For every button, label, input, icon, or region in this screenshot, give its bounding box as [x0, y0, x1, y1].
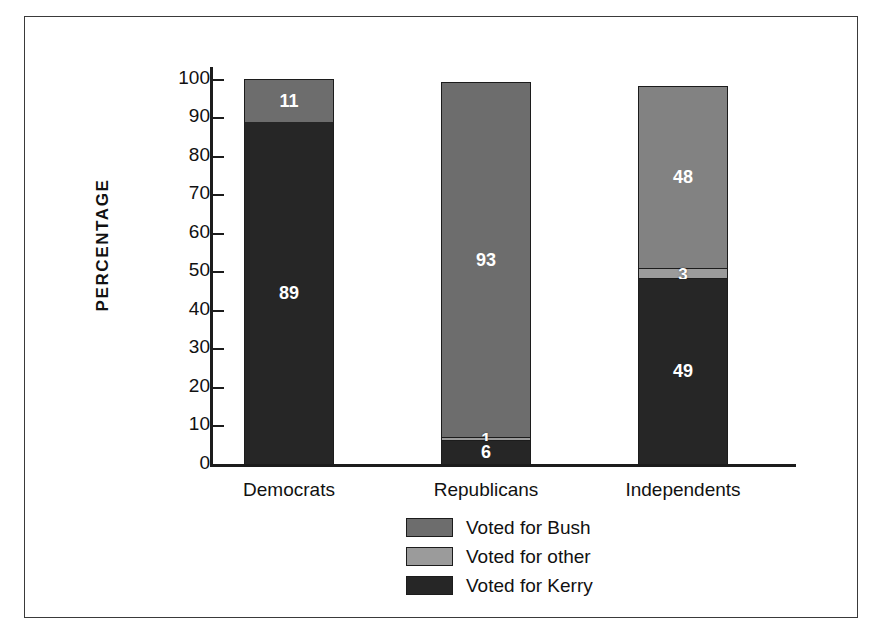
legend-label-other: Voted for other [466, 546, 591, 568]
legend-item-bush[interactable]: Voted for Bush [406, 514, 593, 541]
y-axis-title: PERCENTAGE [93, 135, 113, 355]
bar-segment-independents-kerry[interactable]: 49 [639, 279, 727, 464]
bar-value-independents-bush: 48 [673, 167, 693, 188]
bar-segment-democrats-kerry[interactable]: 89 [245, 122, 333, 464]
y-tick-label-100: 100 [166, 68, 210, 87]
legend-swatch-kerry [406, 576, 453, 595]
legend-label-kerry: Voted for Kerry [466, 575, 593, 597]
bar-segment-republicans-kerry[interactable]: 6 [442, 441, 530, 464]
bar-stack-democrats[interactable]: 11 89 [244, 79, 334, 465]
x-tick-label-democrats: Democrats [189, 479, 389, 501]
y-tick-label-20: 20 [166, 376, 210, 395]
y-tick-label-50: 50 [166, 260, 210, 279]
legend-item-kerry[interactable]: Voted for Kerry [406, 572, 593, 599]
bar-segment-independents-other[interactable]: 3 [639, 268, 727, 279]
y-tick-label-30: 30 [166, 337, 210, 356]
y-tick-label-80: 80 [166, 145, 210, 164]
bar-value-democrats-kerry: 89 [279, 283, 299, 304]
y-tick-label-60: 60 [166, 222, 210, 241]
y-tick-label-70: 70 [166, 183, 210, 202]
y-tick-label-0: 0 [166, 453, 210, 472]
legend-swatch-other [406, 547, 453, 566]
y-tick-label-40: 40 [166, 299, 210, 318]
legend-swatch-bush [406, 518, 453, 537]
bar-value-republicans-bush: 93 [476, 250, 496, 271]
chart-legend: Voted for Bush Voted for other Voted for… [406, 514, 593, 601]
figure-frame: PERCENTAGE 100 90 80 70 60 50 40 30 20 1… [24, 16, 858, 618]
bar-value-democrats-bush: 11 [279, 91, 298, 112]
bar-stack-independents[interactable]: 48 3 49 [638, 86, 728, 465]
y-tick-label-10: 10 [166, 414, 210, 433]
y-tick-label-90: 90 [166, 106, 210, 125]
plot-area: 11 89 93 1 6 [210, 67, 795, 465]
bar-segment-democrats-bush[interactable]: 11 [245, 80, 333, 122]
legend-item-other[interactable]: Voted for other [406, 543, 593, 570]
bar-segment-republicans-bush[interactable]: 93 [442, 83, 530, 437]
x-tick-label-independents: Independents [583, 479, 783, 501]
x-tick-label-republicans: Republicans [386, 479, 586, 501]
bar-value-independents-kerry: 49 [673, 361, 693, 382]
legend-label-bush: Voted for Bush [466, 517, 591, 539]
bar-value-republicans-kerry: 6 [481, 442, 491, 463]
bar-stack-republicans[interactable]: 93 1 6 [441, 82, 531, 465]
bar-segment-independents-bush[interactable]: 48 [639, 87, 727, 268]
